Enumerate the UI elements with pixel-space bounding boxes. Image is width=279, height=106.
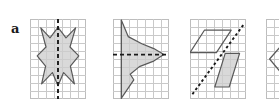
- panel-a-plot: [30, 19, 86, 99]
- panel-c-plot: [190, 19, 246, 99]
- panel-d-plot: [266, 19, 279, 99]
- panel-b-drawing: [113, 19, 170, 99]
- panel-b-plot: [113, 19, 170, 99]
- panel-a-label: a: [11, 22, 19, 35]
- panel-a-drawing: [30, 19, 86, 99]
- symmetry-figure: a b c d: [0, 0, 279, 106]
- panel-c: c: [176, 0, 250, 106]
- panel-d: d: [250, 0, 279, 106]
- panel-a: a: [0, 0, 96, 106]
- panel-c-drawing: [190, 19, 246, 99]
- panel-d-drawing: [266, 19, 279, 99]
- panel-b: b: [96, 0, 176, 106]
